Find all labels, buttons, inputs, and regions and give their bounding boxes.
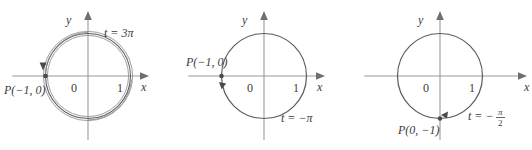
parameter-label: t = 3π [104,26,134,40]
origin-label: 0 [247,81,253,95]
panel-t-minus-pi-over-2: y x 0 1 P(0, −1) t = − π 2 [352,0,532,150]
y-axis-arrow-icon [84,11,92,20]
x-tick-label-one: 1 [469,81,475,95]
direction-arrow-icon [219,82,226,89]
y-axis-label: y [417,13,424,27]
panel-t-3pi: y x 0 1 P(−1, 0) t = 3π [0,0,180,150]
panel-t-minus-pi: y x 0 1 P(−1, 0) t = −π [176,0,356,150]
x-axis [188,72,325,80]
parameter-label-text: t = − [468,109,494,123]
y-axis-label: y [241,13,248,27]
point-label: P(0, −1) [397,123,439,137]
x-tick-label-one: 1 [117,81,123,95]
x-tick-label-one: 1 [293,81,299,95]
unit-circle-figure: y x 0 1 P(−1, 0) t = 3π y x 0 1 [0,0,532,150]
point-label: P(−1, 0) [3,83,45,97]
x-axis-arrow-icon [316,72,325,80]
parameter-denominator: 2 [498,118,503,128]
x-axis-label: x [523,80,530,94]
x-axis-label: x [316,80,323,94]
parameter-numerator: π [498,107,503,117]
terminal-point-marker [438,116,443,121]
parameter-label: t = −π [281,111,314,125]
x-axis-arrow-icon [140,72,149,80]
origin-label: 0 [71,81,77,95]
parameter-label: t = − π 2 [468,107,505,128]
point-label: P(−1, 0) [185,55,227,69]
x-axis-label: x [140,80,147,94]
terminal-point-marker [43,74,48,79]
x-axis [364,72,527,80]
terminal-point-marker [219,74,224,79]
y-axis-arrow-icon [260,11,268,20]
y-axis-label: y [65,13,72,27]
y-axis-arrow-icon [436,11,444,20]
x-axis-arrow-icon [518,72,527,80]
origin-label: 0 [423,81,429,95]
